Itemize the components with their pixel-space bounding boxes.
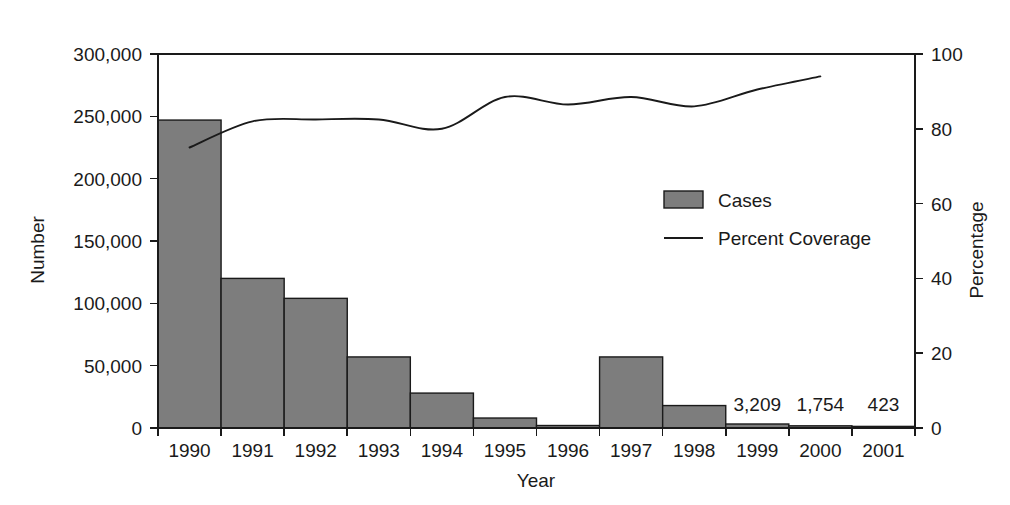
- legend-swatch-cases: [664, 191, 703, 208]
- x-tick-label-1999: 1999: [736, 440, 778, 461]
- x-tick-label-1990: 1990: [168, 440, 210, 461]
- y-axis-title-left: Number: [27, 216, 48, 284]
- x-tick-label-1993: 1993: [358, 440, 400, 461]
- x-tick-label-1995: 1995: [484, 440, 526, 461]
- y-tick-label-right: 100: [931, 44, 963, 65]
- x-tick-label-2001: 2001: [862, 440, 904, 461]
- y-tick-label-right: 0: [931, 418, 942, 439]
- x-axis-title: Year: [517, 470, 556, 491]
- y-tick-label-right: 20: [931, 343, 952, 364]
- y-tick-label-left: 50,000: [84, 356, 142, 377]
- x-tick-label-1997: 1997: [610, 440, 652, 461]
- bar-1997: [600, 357, 663, 428]
- y-tick-label-right: 60: [931, 194, 952, 215]
- y-tick-label-right: 80: [931, 119, 952, 140]
- y-tick-label-left: 200,000: [73, 169, 142, 190]
- x-tick-label-1992: 1992: [295, 440, 337, 461]
- bar-value-label-1999: 3,209: [734, 394, 782, 415]
- x-tick-label-2000: 2000: [799, 440, 841, 461]
- dual-axis-chart: 050,000100,000150,000200,000250,000300,0…: [0, 0, 1010, 505]
- bar-1998: [663, 406, 726, 428]
- chart-background: [0, 0, 1010, 505]
- bar-value-label-2001: 423: [868, 394, 900, 415]
- bar-value-annotations: 3,2091,754423: [734, 394, 900, 415]
- x-tick-label-1991: 1991: [231, 440, 273, 461]
- y-tick-label-left: 150,000: [73, 231, 142, 252]
- x-tick-label-1998: 1998: [673, 440, 715, 461]
- x-tick-label-1996: 1996: [547, 440, 589, 461]
- y-tick-label-right: 40: [931, 268, 952, 289]
- bar-1993: [347, 357, 410, 428]
- bar-1990: [158, 120, 221, 428]
- bar-value-label-2000: 1,754: [797, 394, 845, 415]
- bar-1994: [410, 393, 473, 428]
- y-tick-label-left: 0: [131, 418, 142, 439]
- y-tick-label-left: 100,000: [73, 293, 142, 314]
- legend-label-percent-coverage: Percent Coverage: [718, 228, 871, 249]
- bar-1995: [473, 418, 536, 428]
- legend-label-cases: Cases: [718, 190, 772, 211]
- bar-1992: [284, 298, 347, 428]
- bar-1991: [221, 278, 284, 428]
- y-axis-title-right: Percentage: [966, 201, 987, 298]
- y-tick-label-left: 250,000: [73, 106, 142, 127]
- x-tick-label-1994: 1994: [421, 440, 464, 461]
- y-tick-label-left: 300,000: [73, 44, 142, 65]
- chart-container: 050,000100,000150,000200,000250,000300,0…: [0, 0, 1010, 505]
